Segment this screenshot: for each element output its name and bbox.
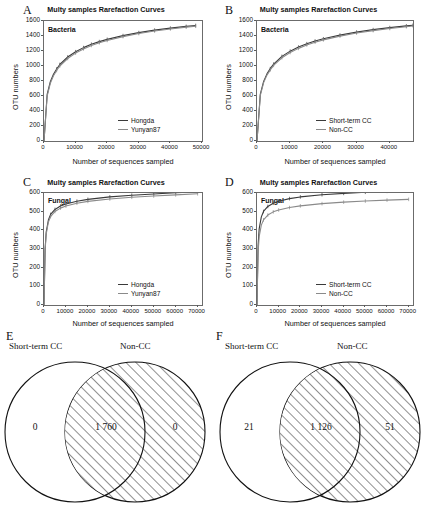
panel-b-xtick-mark (356, 141, 357, 143)
panel-b-title: Multy samples Rarefaction Curves (212, 5, 425, 14)
panel-b-ytick-mark (254, 95, 256, 96)
panel-a-ytick-label: 600 (14, 91, 40, 98)
panel-a-xtick-label: 30000 (122, 144, 154, 150)
panel-c-ytick-label: 0 (14, 300, 40, 307)
panel-f: F Short-term CC Non-CC 21 1 126 51 (212, 330, 425, 513)
panel-a-xtick-mark (106, 141, 107, 143)
legend-label: Non-CC (329, 290, 353, 297)
legend-line-swatch (316, 293, 326, 295)
legend-line-swatch (316, 129, 326, 131)
panel-a-ytick-mark (41, 80, 43, 81)
panel-b-xtick-label: 10000 (273, 144, 305, 150)
panel-d-ytick-mark (254, 248, 256, 249)
panel-c-ytick-mark (41, 248, 43, 249)
panel-d-xtick-label: 70000 (392, 308, 424, 314)
panel-d-xtick-mark (321, 305, 322, 307)
panel-c-ytick-label: 100 (14, 281, 40, 288)
panel-b-ytick-label: 1600 (227, 16, 253, 23)
panel-c-ylabel: OTU numbers (11, 232, 20, 278)
legend-line-swatch (118, 293, 128, 295)
panel-e-left-only-count: 0 (23, 422, 47, 432)
panel-c-xtick-mark (65, 305, 66, 307)
legend-item: Hongda (118, 280, 160, 289)
panel-d-xtick-mark (278, 305, 279, 307)
panel-e-set-label-left: Short-term CC (9, 341, 62, 351)
panel-c-ytick-mark (41, 229, 43, 230)
panel-f-set-label-left: Short-term CC (225, 341, 278, 351)
panel-c-ytick-label: 500 (14, 207, 40, 214)
panel-a-ytick-mark (41, 65, 43, 66)
panel-b-ytick-label: 0 (227, 136, 253, 143)
panel-b-ytick-label: 1200 (227, 46, 253, 53)
panel-b-ytick-mark (254, 80, 256, 81)
panel-d-ytick-mark (254, 211, 256, 212)
panel-b: B Multy samples Rarefaction Curves OTU n… (212, 0, 425, 170)
panel-c-title: Multy samples Rarefaction Curves (0, 178, 212, 187)
panel-c-ytick-label: 200 (14, 263, 40, 270)
panel-b-ytick-label: 200 (227, 121, 253, 128)
panel-a-xtick-label: 20000 (90, 144, 122, 150)
panel-letter-f: F (216, 329, 223, 344)
panel-c-ytick-label: 600 (14, 188, 40, 195)
panel-b-xtick-label: 0 (240, 144, 272, 150)
panel-f-intersection-count: 1 126 (300, 422, 342, 432)
panel-b-ylabel: OTU numbers (224, 64, 233, 110)
panel-b-ytick-label: 800 (227, 76, 253, 83)
panel-e-right-only-count: 0 (163, 422, 187, 432)
panel-d-ytick-mark (254, 192, 256, 193)
panel-c-xtick-mark (175, 305, 176, 307)
panel-c-ytick-mark (41, 285, 43, 286)
panel-c-ytick-mark (41, 192, 43, 193)
panel-d-xtick-mark (364, 305, 365, 307)
panel-c-xtick-mark (109, 305, 110, 307)
panel-b-ytick-mark (254, 35, 256, 36)
panel-f-right-only-count: 51 (378, 422, 402, 432)
panel-d-ytick-label: 200 (227, 263, 253, 270)
legend-line-swatch (118, 129, 128, 131)
panel-d-xtick-mark (408, 305, 409, 307)
legend-item: Non-CC (316, 125, 372, 134)
panel-b-xtick-mark (289, 141, 290, 143)
panel-c-ytick-mark (41, 211, 43, 212)
legend-label: Non-CC (329, 126, 353, 133)
figure-root: A Multy samples Rarefaction Curves OTU n… (0, 0, 425, 513)
panel-a-xtick-mark (201, 141, 202, 143)
panel-b-ytick-mark (254, 50, 256, 51)
panel-d-ylabel: OTU numbers (224, 232, 233, 278)
legend-item: Hongda (118, 116, 160, 125)
legend-line-swatch (316, 284, 326, 286)
panel-a-xtick-label: 10000 (59, 144, 91, 150)
panel-e-venn (0, 356, 212, 511)
panel-d-title: Multy samples Rarefaction Curves (212, 178, 425, 187)
panel-c-ytick-mark (41, 267, 43, 268)
panel-d-ytick-label: 0 (227, 300, 253, 307)
panel-f-left-only-count: 21 (237, 422, 261, 432)
panel-a-ytick-mark (41, 95, 43, 96)
panel-d-ytick-label: 300 (227, 244, 253, 251)
panel-b-ytick-label: 1000 (227, 61, 253, 68)
panel-a: A Multy samples Rarefaction Curves OTU n… (0, 0, 212, 170)
panel-c-xlabel: Number of sequences sampled (43, 319, 203, 328)
panel-b-xlabel: Number of sequences sampled (256, 157, 414, 166)
legend-label: Yunyan87 (131, 126, 160, 133)
panel-a-legend: HongdaYunyan87 (118, 116, 160, 134)
panel-c-xtick-label: 70000 (181, 308, 213, 314)
panel-b-ytick-mark (254, 125, 256, 126)
panel-a-xtick-mark (43, 141, 44, 143)
panel-a-ytick-mark (41, 125, 43, 126)
panel-d-legend: Short-term CCNon-CC (316, 280, 372, 298)
panel-a-ytick-label: 800 (14, 76, 40, 83)
legend-item: Short-term CC (316, 280, 372, 289)
panel-d-xtick-mark (343, 305, 344, 307)
panel-d-xlabel: Number of sequences sampled (256, 319, 414, 328)
panel-b-xtick-label: 40000 (373, 144, 405, 150)
panel-a-ytick-mark (41, 35, 43, 36)
panel-c-xtick-mark (153, 305, 154, 307)
panel-c-xtick-mark (43, 305, 44, 307)
panel-c-ytick-label: 400 (14, 225, 40, 232)
legend-label: Short-term CC (329, 117, 372, 124)
panel-a-xtick-mark (75, 141, 76, 143)
panel-b-xtick-label: 20000 (306, 144, 338, 150)
panel-e: E Short-term CC Non-CC 0 1 760 0 (0, 330, 212, 513)
legend-label: Short-term CC (329, 281, 372, 288)
